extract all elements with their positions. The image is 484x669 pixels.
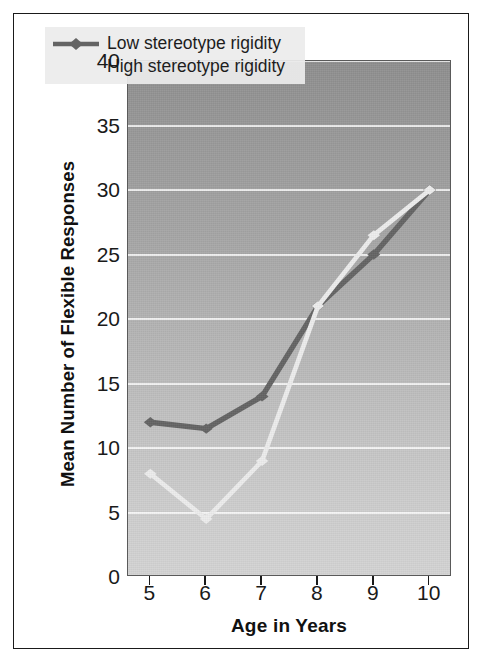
y-tick-label: 40 [72,50,120,71]
x-tick-label: 5 [129,582,169,603]
x-axis-title: Age in Years [127,615,451,637]
y-tick-label: 25 [72,243,120,264]
y-tick-label: 15 [72,372,120,393]
chart-figure: Mean Number of Flexible Responses Low st… [0,0,484,669]
legend-label: Low stereotype rigidity [107,35,281,53]
x-tick-label: 7 [241,582,281,603]
x-tick-label: 8 [297,582,337,603]
x-tick-label: 9 [353,582,393,603]
x-tick-label: 6 [185,582,225,603]
x-tick-label: 10 [409,582,449,603]
y-tick-label: 10 [72,437,120,458]
y-tick-label: 0 [72,566,120,587]
legend-label: High stereotype rigidity [107,58,285,76]
series-lines [128,61,451,576]
y-tick-label: 35 [72,114,120,135]
y-tick-label: 5 [72,501,120,522]
plot-area [127,60,451,576]
y-tick-label: 30 [72,179,120,200]
y-tick-label: 20 [72,308,120,329]
figure-border: Mean Number of Flexible Responses Low st… [13,13,469,649]
data-point-marker [144,417,157,427]
